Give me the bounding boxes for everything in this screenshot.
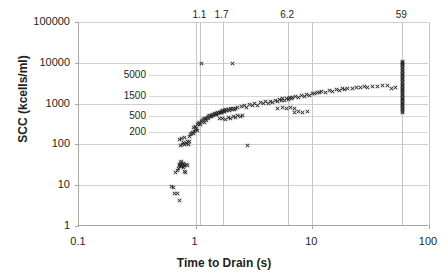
data-point	[323, 90, 328, 95]
data-point	[337, 88, 342, 93]
x-axis-title: Time to Drain (s)	[0, 256, 448, 270]
data-point	[228, 106, 233, 111]
data-point	[244, 105, 249, 110]
data-point	[315, 90, 320, 95]
data-point	[292, 110, 297, 115]
reference-line-vertical	[288, 22, 289, 225]
data-point	[239, 104, 244, 109]
y-axis-tick	[75, 63, 79, 64]
y-axis-tick-label: 100	[4, 138, 70, 149]
gridline-vertical	[312, 22, 313, 225]
top-reference-label: 1.7	[202, 10, 242, 20]
data-point	[365, 85, 370, 90]
data-point	[317, 90, 322, 95]
inner-reference-label: 200	[100, 127, 146, 137]
data-point	[185, 139, 190, 144]
scatter-chart-figure: SCC (kcells/ml) Time to Drain (s) 110100…	[0, 0, 448, 278]
data-point	[179, 164, 184, 169]
data-point	[182, 135, 187, 140]
y-axis-tick-label: 1000	[4, 98, 70, 109]
data-point	[175, 191, 180, 196]
data-point	[273, 98, 278, 103]
data-point	[184, 162, 189, 167]
data-point	[389, 86, 394, 91]
gridline-vertical	[429, 22, 430, 225]
data-point	[180, 162, 185, 167]
data-point	[217, 116, 222, 121]
gridline-vertical	[196, 22, 197, 225]
y-axis-tick	[75, 104, 79, 105]
data-point	[182, 163, 187, 168]
inner-reference-label: 5000	[100, 70, 146, 80]
plot-inner	[79, 22, 428, 225]
data-point	[177, 137, 182, 142]
data-point	[217, 110, 222, 115]
data-point	[296, 109, 301, 114]
data-point	[204, 118, 209, 123]
data-point	[179, 159, 184, 164]
data-point	[292, 106, 297, 111]
data-point	[181, 161, 186, 166]
data-point	[330, 89, 335, 94]
x-axis-tick-label: 10	[291, 236, 331, 247]
y-axis-tick	[75, 185, 79, 186]
data-point	[185, 163, 190, 168]
data-point	[370, 84, 375, 89]
data-point	[235, 105, 240, 110]
inner-reference-label: 1500	[100, 91, 146, 101]
data-point	[280, 105, 285, 110]
data-point	[340, 86, 345, 91]
data-point	[342, 87, 347, 92]
x-axis-tick-label: 0.1	[58, 236, 98, 247]
gridline-horizontal	[79, 104, 428, 105]
data-point	[177, 163, 182, 168]
data-point	[179, 164, 184, 169]
gridline-horizontal	[79, 22, 428, 23]
data-point	[232, 107, 237, 112]
data-point	[327, 88, 332, 93]
x-axis-tick-label: 1	[175, 236, 215, 247]
data-point	[226, 107, 231, 112]
x-axis-tick-label: 100	[408, 236, 448, 247]
data-point	[354, 85, 359, 90]
data-point	[230, 107, 235, 112]
y-axis-tick	[75, 22, 79, 23]
data-point	[172, 191, 177, 196]
data-point	[375, 84, 380, 89]
data-point	[277, 97, 282, 102]
data-point	[279, 98, 284, 103]
gridline-horizontal	[79, 144, 428, 145]
data-point	[181, 163, 186, 168]
data-point	[177, 198, 182, 203]
data-point	[350, 86, 355, 91]
data-point	[233, 106, 238, 111]
y-axis-tick-label: 100000	[4, 16, 70, 27]
data-point	[385, 83, 390, 88]
y-axis-tick-label: 10000	[4, 57, 70, 68]
top-reference-label: 6.2	[267, 10, 307, 20]
reference-line-vertical	[200, 22, 201, 225]
y-axis-tick	[75, 226, 79, 227]
top-reference-label: 59	[381, 10, 421, 20]
reference-line-vertical	[223, 22, 224, 225]
data-point	[358, 85, 363, 90]
data-point	[305, 109, 310, 114]
y-axis-tick-label: 1	[4, 220, 70, 231]
data-point	[215, 110, 220, 115]
data-point	[177, 162, 182, 167]
reference-line-vertical	[402, 22, 403, 225]
data-point	[345, 86, 350, 91]
data-point	[362, 84, 367, 89]
data-point	[223, 107, 228, 112]
data-point	[319, 89, 324, 94]
y-axis-tick-label: 10	[4, 179, 70, 190]
data-point	[202, 120, 207, 125]
data-point	[175, 168, 180, 173]
data-point	[178, 163, 183, 168]
data-point	[187, 134, 192, 139]
data-point	[380, 83, 385, 88]
inner-reference-label: 500	[100, 111, 146, 121]
gridline-horizontal	[79, 185, 428, 186]
data-point	[183, 170, 188, 175]
data-point	[300, 110, 305, 115]
